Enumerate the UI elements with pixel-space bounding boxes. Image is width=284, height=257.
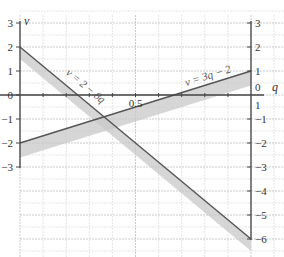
axes [0, 21, 264, 240]
left-tick-label: −3 [1, 161, 13, 173]
x-tick-label: 1 [255, 99, 261, 111]
right-tick-label: −4 [255, 185, 267, 197]
left-tick-label: −2 [1, 137, 13, 149]
right-tick-label: −3 [255, 161, 267, 173]
right-tick-label: 1 [255, 65, 261, 77]
right-tick-label: 3 [255, 17, 261, 29]
left-tick-label: 0 [8, 89, 14, 101]
x-axis-label: q [272, 80, 278, 94]
chart: 3210−1−2−33210−1−2−3−4−5−60.51vqv = 2 − … [0, 0, 284, 257]
right-tick-label: 0 [255, 81, 261, 93]
right-tick-label: −2 [255, 137, 267, 149]
left-tick-label: 1 [8, 65, 14, 77]
x-tick-label: 0.5 [129, 97, 143, 109]
right-tick-label: 2 [255, 41, 261, 53]
right-tick-label: −5 [255, 209, 267, 221]
right-tick-label: −6 [255, 233, 267, 245]
y-axis-label: v [24, 14, 30, 28]
left-tick-label: 2 [8, 41, 14, 53]
left-tick-label: 3 [8, 17, 14, 29]
right-tick-label: −1 [255, 113, 267, 125]
left-tick-label: −1 [1, 113, 13, 125]
